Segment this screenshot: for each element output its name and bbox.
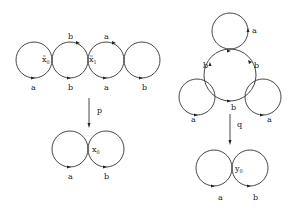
arrow-head-icon bbox=[247, 185, 251, 188]
edge-label: b bbox=[254, 61, 259, 70]
arrow-head-icon bbox=[31, 77, 35, 80]
vertex-label: y0 bbox=[234, 164, 243, 174]
loop-circle bbox=[245, 79, 281, 115]
arrow-head-icon bbox=[211, 185, 215, 188]
loop-circle bbox=[52, 131, 88, 167]
map-q-arrow: q bbox=[229, 114, 243, 145]
edge-label: a bbox=[267, 115, 272, 124]
loop-circle bbox=[179, 79, 215, 115]
arrow-head-icon bbox=[103, 166, 107, 169]
arrow-head-icon bbox=[227, 50, 231, 53]
right-base-graph: y0 a b bbox=[196, 150, 268, 202]
edge-label: a bbox=[218, 193, 223, 202]
vertex-label: x0 bbox=[92, 145, 100, 155]
left-base-graph: x0 a b bbox=[52, 131, 124, 181]
arrow-head-icon bbox=[67, 166, 71, 169]
arrow-head-icon bbox=[139, 77, 143, 80]
map-p-arrow: p bbox=[88, 98, 103, 128]
edge-label: a bbox=[252, 26, 257, 35]
loop-circle bbox=[124, 42, 160, 78]
right-cover-graph: a b b b a a bbox=[179, 13, 281, 124]
edge-label: b bbox=[253, 193, 258, 202]
arrow-head-icon bbox=[247, 28, 250, 32]
vertex-label: x̃0 bbox=[42, 55, 50, 65]
map-label: q bbox=[237, 120, 242, 129]
edge-label: b bbox=[68, 83, 73, 92]
edge-label: b bbox=[203, 61, 208, 70]
loop-circle bbox=[52, 42, 88, 78]
arrow-head-icon bbox=[67, 77, 71, 80]
arrow-down-icon bbox=[88, 123, 91, 128]
loop-circle bbox=[196, 150, 232, 186]
edge-label: a bbox=[104, 83, 109, 92]
arrow-head-icon bbox=[260, 114, 264, 117]
map-label: p bbox=[97, 106, 102, 115]
loop-circle bbox=[204, 49, 256, 101]
arrow-head-icon bbox=[209, 62, 212, 66]
edge-label: a bbox=[104, 32, 109, 41]
edge-label: b bbox=[231, 103, 236, 112]
edge-label: a bbox=[191, 115, 196, 124]
vertex-label: x̃1 bbox=[89, 55, 97, 65]
loop-circle bbox=[212, 13, 248, 49]
edge-label: a bbox=[68, 172, 73, 181]
edge-label: a bbox=[31, 83, 36, 92]
covering-spaces-diagram: b a a b a b x̃0 x̃1 p x0 a b a bbox=[0, 0, 303, 211]
arrow-down-icon bbox=[229, 140, 232, 145]
edge-label: b bbox=[104, 172, 109, 181]
left-cover-graph: b a a b a b x̃0 x̃1 bbox=[16, 32, 160, 92]
edge-label: b bbox=[68, 32, 73, 41]
edge-label: b bbox=[142, 83, 147, 92]
arrow-head-icon bbox=[103, 77, 107, 80]
